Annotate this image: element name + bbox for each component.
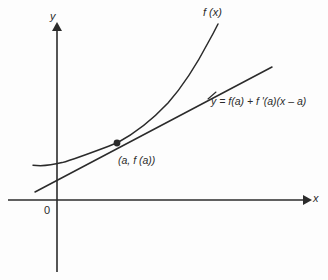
tangent-line xyxy=(35,67,272,192)
y-axis xyxy=(52,22,62,272)
function-curve-label: f (x) xyxy=(203,7,222,18)
origin-label: 0 xyxy=(44,205,50,216)
tangent-line-figure: f (x) y x 0 (a, f (a)) y = f(a) + f '(a)… xyxy=(0,0,328,280)
tangent-equation-label: y = f(a) + f '(a)(x – a) xyxy=(211,96,306,107)
y-axis-label: y xyxy=(50,11,56,22)
x-axis-label: x xyxy=(313,193,319,204)
y-axis-arrowhead-icon xyxy=(52,22,62,31)
tangency-point-label: (a, f (a)) xyxy=(118,155,155,166)
x-axis xyxy=(8,195,312,205)
figure-canvas xyxy=(0,0,328,280)
tangency-point-marker xyxy=(114,140,121,147)
x-axis-arrowhead-icon xyxy=(303,195,312,205)
